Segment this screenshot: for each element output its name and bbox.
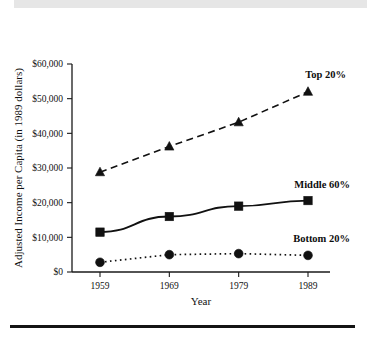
- y-tick-label: $60,000: [32, 59, 63, 69]
- series-group: [95, 87, 312, 267]
- y-tick-group: $0$10,000$20,000$30,000$40,000$50,000$60…: [32, 59, 72, 277]
- x-tick-label: 1969: [160, 281, 179, 291]
- series-label-middle-60: Middle 60%: [294, 179, 350, 190]
- x-axis-title: Year: [191, 295, 212, 307]
- y-tick-label: $40,000: [32, 129, 63, 139]
- y-tick-label: $10,000: [32, 233, 63, 243]
- x-tick-label: 1979: [229, 281, 248, 291]
- data-point-marker: [165, 212, 173, 220]
- y-axis-group: $0$10,000$20,000$30,000$40,000$50,000$60…: [32, 59, 72, 277]
- data-point-marker: [304, 196, 312, 204]
- chart-figure: $0$10,000$20,000$30,000$40,000$50,000$60…: [0, 8, 367, 313]
- x-tick-label: 1959: [91, 281, 110, 291]
- x-tick-group: 1959196919791989: [91, 272, 318, 291]
- line-chart: $0$10,000$20,000$30,000$40,000$50,000$60…: [0, 8, 367, 313]
- figure-page: $0$10,000$20,000$30,000$40,000$50,000$60…: [0, 0, 367, 341]
- series-line-top-20: [100, 92, 308, 172]
- bottom-rule: [10, 325, 355, 328]
- data-point-marker: [234, 202, 242, 210]
- y-axis-title: Adjusted Income per Capita (in 1989 doll…: [12, 68, 25, 268]
- y-tick-label: $30,000: [32, 163, 63, 173]
- data-point-marker: [165, 250, 174, 259]
- data-point-marker: [304, 251, 313, 260]
- series-label-group: Top 20%Middle 60%Bottom 20%: [293, 69, 350, 245]
- y-tick-label: $0: [54, 267, 64, 277]
- data-point-marker: [234, 249, 243, 258]
- header-band: [14, 0, 367, 8]
- data-point-marker: [165, 142, 174, 151]
- y-tick-label: $20,000: [32, 198, 63, 208]
- data-point-marker: [96, 228, 104, 236]
- x-axis-group: 1959196919791989: [72, 272, 330, 291]
- y-tick-label: $50,000: [32, 94, 63, 104]
- data-point-marker: [303, 87, 312, 96]
- series-line-bottom-20: [100, 254, 308, 263]
- series-line-middle-60: [100, 201, 308, 233]
- x-tick-label: 1989: [299, 281, 318, 291]
- data-point-marker: [96, 258, 105, 267]
- series-label-top-20: Top 20%: [305, 69, 346, 80]
- series-label-bottom-20: Bottom 20%: [293, 233, 350, 244]
